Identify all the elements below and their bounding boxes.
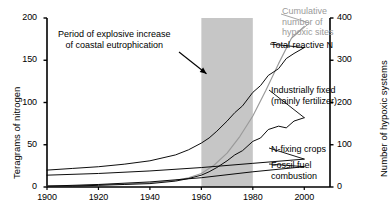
x-tick-1900: 1900 bbox=[30, 192, 64, 202]
series-label-fossil-fuel: Fossil fuel combustion bbox=[271, 160, 317, 181]
series-label-hypoxic-sites: Cumulative number of hypoxic sites bbox=[282, 6, 334, 38]
nitrogen-hypoxia-chart: Teragrams of nitrogen Number of hypoxic … bbox=[0, 0, 391, 211]
x-tick-1940: 1940 bbox=[133, 192, 167, 202]
y-right-tick-100: 100 bbox=[337, 139, 365, 149]
y-right-tick-300: 300 bbox=[337, 54, 365, 64]
annotation-line-2: of coastal eutrophication bbox=[58, 40, 171, 51]
y-left-tick-0: 0 bbox=[9, 181, 37, 191]
industrial-label-line-1: Industrially fixed bbox=[271, 85, 337, 96]
x-tick-1980: 1980 bbox=[236, 192, 270, 202]
annotation-line-1: Period of explosive increase bbox=[58, 29, 171, 40]
series-line-2 bbox=[47, 118, 304, 186]
y-right-tick-200: 200 bbox=[337, 97, 365, 107]
series-label-n-fixing-crops: N-fixing crops bbox=[271, 144, 326, 155]
eutrophication-annotation: Period of explosive increase of coastal … bbox=[58, 29, 171, 51]
series-label-industrially-fixed: Industrially fixed (mainly fertilizer) bbox=[271, 85, 337, 106]
x-tick-2000: 2000 bbox=[287, 192, 321, 202]
y-left-tick-50: 50 bbox=[9, 139, 37, 149]
fossil-label-line-1: Fossil fuel bbox=[271, 160, 317, 171]
y-right-tick-400: 400 bbox=[337, 12, 365, 22]
hypoxic-label-line-3: hypoxic sites bbox=[282, 27, 334, 38]
hypoxic-label-line-1: Cumulative bbox=[282, 6, 334, 17]
right-axis-title: Number of hypoxic systems bbox=[378, 60, 389, 177]
x-tick-1920: 1920 bbox=[81, 192, 115, 202]
series-line-1 bbox=[47, 48, 304, 171]
series-label-total-reactive-n: Total reactive N bbox=[271, 40, 333, 51]
fossil-label-line-2: combustion bbox=[271, 171, 317, 182]
y-left-tick-100: 100 bbox=[9, 97, 37, 107]
hypoxic-label-line-2: number of bbox=[282, 17, 334, 28]
y-right-tick-0: 0 bbox=[337, 181, 365, 191]
industrial-label-line-2: (mainly fertilizer) bbox=[271, 96, 337, 107]
x-tick-1960: 1960 bbox=[184, 192, 218, 202]
y-left-tick-150: 150 bbox=[9, 54, 37, 64]
y-left-tick-200: 200 bbox=[9, 12, 37, 22]
